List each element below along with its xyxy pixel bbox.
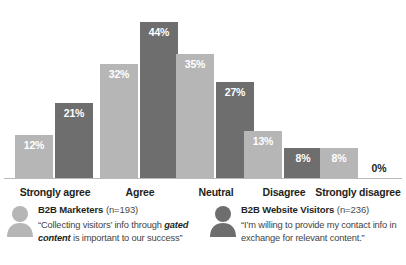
category-label-strongly-agree: Strongly agree [11,186,99,198]
bar-group-agree: 32% 44% Agree [96,0,184,198]
bar-marketers-neutral[interactable]: 35% [176,54,214,178]
legend-quote-part1: “I’m willing to provide my contact info … [241,220,396,243]
legend-title-row: B2B Marketers (n=193) [38,203,201,216]
chart-legend: B2B Marketers (n=193) “Collecting visito… [0,200,406,265]
bar-value-label: 21% [55,107,93,119]
legend-quote-part1: “Collecting visitors’ info through [38,220,164,230]
bar-marketers-agree[interactable]: 32% [100,64,138,178]
category-label-agree: Agree [96,186,184,198]
legend-quote: “I’m willing to provide my contact info … [241,219,404,245]
bar-value-label: 13% [244,135,282,147]
bar-marketers-strongly-agree[interactable]: 12% [15,135,53,178]
category-label-strongly-disagree: Strongly disagree [312,186,404,198]
legend-text-block: B2B Website Visitors (n=236) “I’m willin… [241,203,404,245]
legend-sample-size: (n=193) [106,204,138,215]
bar-group-strongly-disagree: 8% 0% Strongly disagree [312,0,404,198]
bar-visitors-strongly-agree[interactable]: 21% [55,103,93,178]
legend-series-name: B2B Website Visitors [241,204,334,215]
bar-value-label: 32% [100,68,138,80]
legend-text-block: B2B Marketers (n=193) “Collecting visito… [38,203,201,245]
person-icon [6,205,34,237]
legend-series-name: B2B Marketers [38,204,103,215]
bar-chart: 12% 21% Strongly agree 32% 44% Agree 35%… [0,0,406,198]
bar-visitors-strongly-disagree[interactable]: 0% [360,162,398,178]
person-icon [209,205,237,237]
legend-entry-visitors: B2B Website Visitors (n=236) “I’m willin… [203,200,406,265]
bar-value-label: 8% [320,152,358,164]
bar-value-label: 35% [176,58,214,70]
bar-value-label: 12% [15,139,53,151]
bar-group-strongly-agree: 12% 21% Strongly agree [11,0,99,198]
bar-value-label: 0% [360,162,398,174]
legend-quote-part2: is important to our success” [71,233,183,243]
bar-marketers-strongly-disagree[interactable]: 8% [320,148,358,178]
legend-quote: “Collecting visitors’ info through gated… [38,219,201,245]
legend-sample-size: (n=236) [337,204,369,215]
legend-entry-marketers: B2B Marketers (n=193) “Collecting visito… [0,200,203,265]
bar-marketers-disagree[interactable]: 13% [244,131,282,178]
legend-title-row: B2B Website Visitors (n=236) [241,203,404,216]
